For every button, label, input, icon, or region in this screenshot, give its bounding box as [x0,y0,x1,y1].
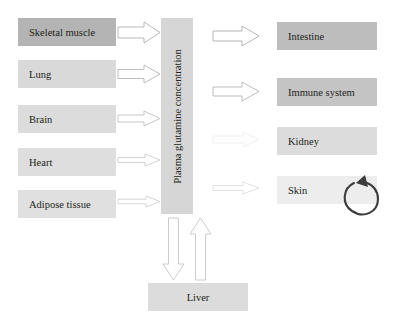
arrow-adipose-tissue-to-plasma [118,196,160,207]
tissue-box-intestine: Intestine [277,22,377,50]
tissue-label: Intestine [288,31,324,42]
tissue-box-immune-system: Immune system [277,78,377,106]
arrow-plasma-to-intestine [213,26,259,46]
tissue-label: Skeletal muscle [29,27,95,38]
arrow-heart-to-plasma [118,154,160,166]
tissue-label: Brain [29,114,52,125]
tissue-box-heart: Heart [18,148,116,176]
tissue-box-lung: Lung [18,60,116,88]
tissue-label: Adipose tissue [29,199,91,210]
arrow-liver-to-plasma [190,218,211,280]
arrow-plasma-to-kidney [213,132,259,147]
tissue-label: Kidney [288,136,319,147]
tissue-label: Lung [29,69,51,80]
plasma-glutamine-concentration-box: Plasma glutamine concentration [161,18,193,214]
tissue-label: Immune system [288,87,355,98]
glutamine-flow-diagram: Skeletal muscle Lung Brain Heart Adipose… [0,0,397,326]
tissue-box-kidney: Kidney [277,127,377,155]
tissue-box-skeletal-muscle: Skeletal muscle [18,18,116,46]
skin-cycle-arrow-icon [338,171,384,223]
tissue-box-brain: Brain [18,105,116,133]
tissue-label: Heart [29,157,52,168]
arrow-brain-to-plasma [118,111,160,126]
arrow-plasma-to-immune-system [213,82,259,101]
tissue-box-liver: Liver [148,283,248,311]
arrow-plasma-to-skin [213,182,259,194]
tissue-label: Liver [187,292,210,303]
plasma-glutamine-label: Plasma glutamine concentration [172,49,183,184]
arrow-plasma-to-liver [163,218,184,280]
tissue-box-adipose-tissue: Adipose tissue [18,190,116,218]
arrow-skeletal-muscle-to-plasma [118,22,160,43]
arrow-lung-to-plasma [118,65,160,83]
tissue-label: Skin [288,185,307,196]
